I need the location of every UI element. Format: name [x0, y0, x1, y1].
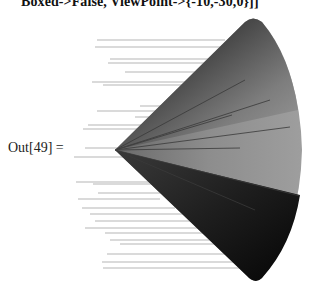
cone-graphic[interactable]	[0, 0, 310, 295]
